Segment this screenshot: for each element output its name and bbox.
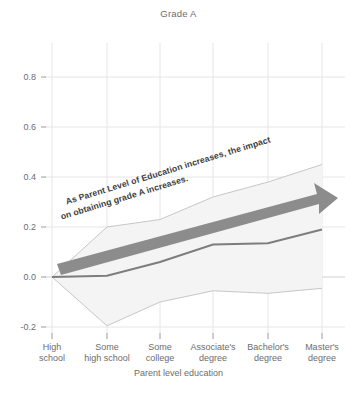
y-tick-marks [41, 77, 46, 327]
x-tick-marks [52, 333, 322, 339]
x-axis-title: Parent level education [0, 368, 357, 378]
y-tick-label: 0.8 [2, 72, 36, 82]
x-tick-label: Master'sdegree [285, 342, 357, 364]
chart-container: Grade A [0, 0, 357, 393]
y-tick-label: 0.2 [2, 222, 36, 232]
y-tick-label: -0.2 [2, 322, 36, 332]
y-tick-label: 0.6 [2, 122, 36, 132]
y-tick-label: 0.0 [2, 272, 36, 282]
chart-plot-svg [0, 0, 357, 393]
y-tick-label: 0.4 [2, 172, 36, 182]
